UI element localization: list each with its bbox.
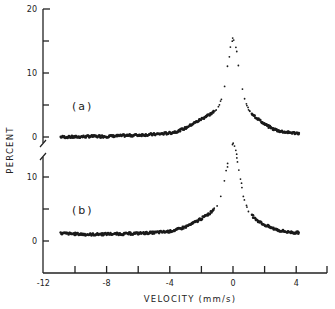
- mossbauer-spectrum-chart: 01020010-12-8-404 PERCENT VELOCITY (mm/s…: [0, 0, 335, 309]
- data-point: [243, 199, 245, 201]
- axes: 01020010-12-8-404: [27, 5, 327, 288]
- panel-label-b: (b): [72, 204, 94, 217]
- x-axis-label: VELOCITY (mm/s): [144, 294, 236, 304]
- data-point: [237, 65, 239, 67]
- data-point: [252, 214, 255, 217]
- y-axis-label: PERCENT: [5, 126, 15, 173]
- data-point: [218, 106, 220, 108]
- data-point: [225, 170, 227, 172]
- panel-label-a: (a): [72, 100, 93, 113]
- data-point: [242, 196, 244, 198]
- data-point: [223, 180, 225, 182]
- data-point: [227, 65, 229, 67]
- data-point: [248, 211, 250, 213]
- data-point: [228, 56, 230, 58]
- data-point: [220, 195, 222, 197]
- series-a: [59, 37, 300, 139]
- data-point: [220, 100, 222, 102]
- data-point: [232, 142, 234, 144]
- x-tick-label: 0: [230, 279, 235, 288]
- data-point: [236, 157, 238, 159]
- data-point: [236, 153, 238, 155]
- data-point: [235, 46, 237, 48]
- data-point: [233, 39, 235, 41]
- data-point: [241, 182, 243, 184]
- y-tick-label: 0: [32, 133, 37, 142]
- data-point: [246, 206, 248, 208]
- data-point: [237, 161, 239, 163]
- data-point: [213, 207, 215, 209]
- series-b: [59, 142, 300, 237]
- data-point: [227, 163, 229, 165]
- data-point: [241, 187, 243, 189]
- data-point: [229, 46, 231, 48]
- data-point: [220, 98, 222, 100]
- axis-break-icon: [40, 140, 46, 160]
- x-tick-label: -12: [37, 279, 50, 288]
- data-point: [246, 105, 248, 107]
- x-tick-label: -8: [103, 279, 111, 288]
- y-tick-label: 0: [32, 237, 37, 246]
- y-tick-label: 10: [27, 173, 37, 182]
- x-tick-label: -4: [166, 279, 174, 288]
- data-point: [246, 205, 248, 207]
- x-tick-label: 4: [294, 279, 299, 288]
- data-point: [201, 218, 204, 221]
- data-point: [245, 103, 247, 105]
- y-tick-label: 20: [27, 5, 37, 14]
- data-point: [298, 132, 301, 135]
- data-point: [219, 104, 221, 106]
- data-point: [297, 231, 300, 234]
- data-point: [224, 86, 226, 88]
- data-point: [215, 109, 217, 111]
- data-point: [216, 205, 218, 207]
- data-point: [242, 88, 244, 90]
- data-point: [244, 98, 246, 100]
- data-point: [249, 110, 251, 112]
- data-point: [240, 178, 242, 180]
- data-point: [235, 149, 237, 151]
- data-point: [179, 130, 182, 133]
- data-point: [236, 51, 238, 53]
- y-tick-label: 10: [27, 69, 37, 78]
- data-point: [247, 106, 249, 108]
- data-point: [238, 169, 240, 171]
- data-point: [232, 37, 234, 39]
- data-point: [231, 40, 233, 42]
- data-point: [227, 166, 229, 168]
- data-point: [234, 145, 236, 147]
